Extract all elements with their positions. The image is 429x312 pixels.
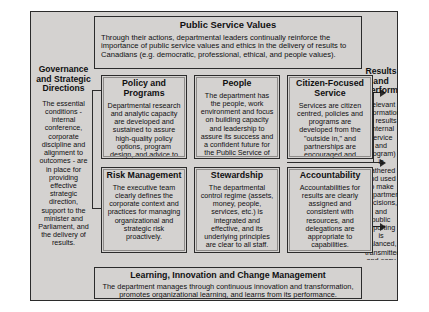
learning-band-title: Learning, Innovation and Change Manageme… [101, 271, 355, 281]
policy-and-programs-box: Policy and Programs Departmental researc… [101, 75, 187, 159]
left-connector-spine [92, 90, 93, 208]
management-accountability-framework-diagram: Public Service Values Through their acti… [30, 11, 398, 301]
policy-and-programs-title: Policy and Programs [106, 79, 182, 99]
accountability-box: Accountability Accountabilities for resu… [287, 167, 373, 253]
governance-and-strategic-directions-panel: Governance and Strategic Directions The … [35, 53, 92, 260]
citizen-focused-service-title: Citizen-Focused Service [292, 79, 368, 99]
citizen-focused-service-box: Citizen-Focused Service Services are cit… [287, 75, 373, 159]
accountability-title: Accountability [292, 171, 368, 181]
people-body: The department has the people, work envi… [199, 92, 275, 159]
stewardship-title: Stewardship [199, 171, 275, 181]
public-service-values-panel: Public Service Values Through their acti… [94, 16, 362, 69]
risk-management-title: Risk Management [106, 171, 182, 181]
people-box: People The department has the people, wo… [194, 75, 280, 159]
people-title: People [199, 79, 275, 89]
risk-management-body: The executive team clearly defines the c… [106, 184, 182, 241]
public-service-values-body: Through their actions, departmental lead… [101, 34, 355, 60]
citizen-focused-service-body: Services are citizen centred, policies a… [292, 102, 368, 159]
stewardship-box: Stewardship The departmental control reg… [194, 167, 280, 253]
governance-title: Governance and Strategic Directions [36, 65, 91, 94]
left-connector-top-arm [92, 90, 101, 91]
stewardship-body: The departmental control regime (assets,… [199, 184, 275, 250]
risk-management-box: Risk Management The executive team clear… [101, 167, 187, 253]
accountability-body: Accountabilities for results are clearly… [292, 184, 368, 250]
governance-body: The essential conditions - internal conf… [36, 100, 91, 248]
learning-band-body: The department manages through continuou… [101, 283, 355, 299]
policy-and-programs-body: Departmental research and analytic capac… [106, 102, 182, 159]
learning-innovation-change-management-panel: Learning, Innovation and Change Manageme… [94, 267, 362, 299]
public-service-values-title: Public Service Values [101, 20, 355, 31]
accountability-to-results-line [287, 162, 373, 163]
left-connector-bottom-arm [92, 208, 101, 209]
